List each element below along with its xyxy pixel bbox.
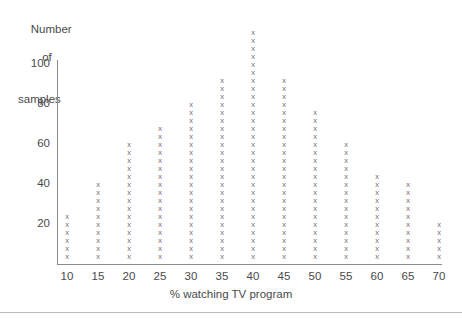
dot-marker: x: [155, 221, 166, 228]
dot-marker: x: [310, 181, 321, 188]
dot-marker: x: [186, 125, 197, 132]
y-axis-line: [57, 60, 58, 265]
dot-marker: x: [93, 213, 104, 220]
dot-marker: x: [217, 173, 228, 180]
dot-marker: x: [341, 213, 352, 220]
dot-marker: x: [310, 133, 321, 140]
dot-marker: x: [93, 189, 104, 196]
dot-marker: x: [372, 181, 383, 188]
dot-marker: x: [279, 125, 290, 132]
dot-marker: x: [248, 85, 259, 92]
dot-marker: x: [279, 109, 290, 116]
dot-marker: x: [341, 141, 352, 148]
dot-marker: x: [279, 229, 290, 236]
dot-column: xxxxxxxxxxxxxxxxxxxx: [186, 0, 197, 264]
dot-column: xxxxxxxxxxxxxxxxxxxxxxx: [279, 0, 290, 264]
dot-marker: x: [217, 101, 228, 108]
dot-marker: x: [124, 205, 135, 212]
dot-marker: x: [217, 253, 228, 260]
dot-marker: x: [62, 237, 73, 244]
dot-marker: x: [62, 245, 73, 252]
dot-marker: x: [155, 245, 166, 252]
dot-marker: x: [217, 237, 228, 244]
dot-marker: x: [217, 213, 228, 220]
dot-marker: x: [217, 133, 228, 140]
dot-marker: x: [248, 165, 259, 172]
dot-marker: x: [310, 117, 321, 124]
dot-marker: x: [124, 165, 135, 172]
dot-marker: x: [155, 237, 166, 244]
x-axis-line: [57, 264, 442, 265]
dot-marker: x: [341, 253, 352, 260]
dot-marker: x: [62, 213, 73, 220]
dot-marker: x: [93, 245, 104, 252]
dot-marker: x: [279, 149, 290, 156]
dot-marker: x: [403, 253, 414, 260]
dot-marker: x: [310, 221, 321, 228]
dot-marker: x: [248, 245, 259, 252]
dot-marker: x: [155, 213, 166, 220]
dot-marker: x: [403, 229, 414, 236]
dot-marker: x: [217, 93, 228, 100]
dot-marker: x: [403, 221, 414, 228]
dot-marker: x: [217, 205, 228, 212]
dot-marker: x: [341, 205, 352, 212]
dot-marker: x: [341, 149, 352, 156]
dot-marker: x: [186, 189, 197, 196]
dot-marker: x: [279, 101, 290, 108]
dot-marker: x: [310, 157, 321, 164]
dot-marker: x: [248, 117, 259, 124]
dot-marker: x: [186, 197, 197, 204]
dot-marker: x: [124, 189, 135, 196]
dot-column: xxxxxxxxxx: [93, 0, 104, 264]
dot-marker: x: [248, 141, 259, 148]
dot-marker: x: [155, 181, 166, 188]
dot-marker: x: [341, 221, 352, 228]
dot-marker: x: [124, 253, 135, 260]
dot-marker: x: [403, 237, 414, 244]
dot-marker: x: [124, 181, 135, 188]
dot-marker: x: [341, 237, 352, 244]
dot-marker: x: [248, 45, 259, 52]
dot-marker: x: [155, 173, 166, 180]
dot-marker: x: [248, 237, 259, 244]
dot-marker: x: [155, 189, 166, 196]
dot-marker: x: [279, 133, 290, 140]
y-tick-label: 20: [10, 217, 50, 229]
dot-marker: x: [62, 229, 73, 236]
dot-marker: x: [279, 189, 290, 196]
dot-marker: x: [186, 213, 197, 220]
dot-marker: x: [310, 237, 321, 244]
dot-marker: x: [217, 165, 228, 172]
dot-marker: x: [341, 229, 352, 236]
dot-marker: x: [403, 245, 414, 252]
dot-marker: x: [341, 165, 352, 172]
dot-marker: x: [186, 157, 197, 164]
dot-marker: x: [217, 245, 228, 252]
dot-marker: x: [93, 197, 104, 204]
dot-marker: x: [310, 173, 321, 180]
dot-marker: x: [217, 149, 228, 156]
dot-marker: x: [248, 205, 259, 212]
dot-marker: x: [310, 109, 321, 116]
dot-marker: x: [341, 157, 352, 164]
dot-marker: x: [93, 237, 104, 244]
dot-marker: x: [217, 197, 228, 204]
dot-marker: x: [248, 197, 259, 204]
dot-marker: x: [310, 205, 321, 212]
bottom-divider: [0, 312, 462, 313]
dot-marker: x: [279, 93, 290, 100]
dot-marker: x: [124, 173, 135, 180]
dot-column: xxxxx: [434, 0, 445, 264]
dot-marker: x: [124, 157, 135, 164]
dot-marker: x: [279, 141, 290, 148]
dot-marker: x: [434, 245, 445, 252]
dot-marker: x: [217, 221, 228, 228]
dot-marker: x: [155, 125, 166, 132]
dot-marker: x: [124, 197, 135, 204]
dot-marker: x: [217, 229, 228, 236]
dot-marker: x: [186, 245, 197, 252]
dot-marker: x: [310, 229, 321, 236]
dot-marker: x: [124, 213, 135, 220]
dot-marker: x: [186, 109, 197, 116]
